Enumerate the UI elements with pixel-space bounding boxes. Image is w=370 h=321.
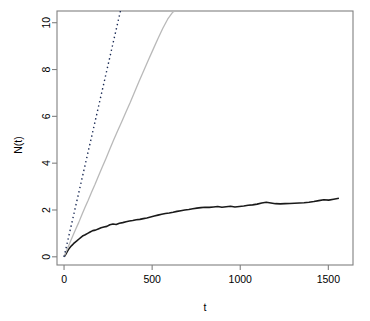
x-tick-label: 500	[143, 273, 161, 285]
y-tick-label: 2	[40, 207, 52, 213]
y-axis-title: N(t)	[12, 136, 24, 154]
x-tick-label: 1000	[229, 273, 253, 285]
y-tick-label: 8	[40, 66, 52, 72]
x-tick-label: 1500	[317, 273, 341, 285]
y-tick-label: 10	[40, 17, 52, 29]
chart-svg: 050010001500 0246810 t N(t)	[0, 0, 370, 321]
x-axis-title: t	[204, 301, 207, 313]
y-tick-label: 4	[40, 160, 52, 166]
y-tick-label: 0	[40, 254, 52, 260]
x-tick-label: 0	[61, 273, 67, 285]
y-tick-label: 6	[40, 113, 52, 119]
chart-container: 050010001500 0246810 t N(t)	[0, 0, 370, 321]
chart-background	[0, 0, 370, 321]
